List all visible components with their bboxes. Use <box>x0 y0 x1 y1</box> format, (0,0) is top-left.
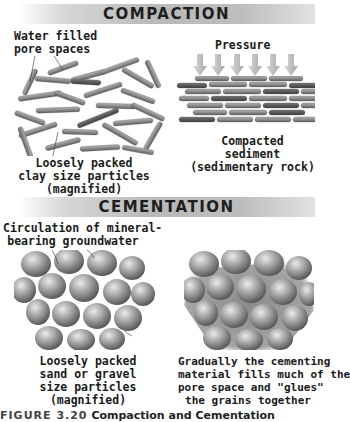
cemented-grains-illustration <box>184 250 314 350</box>
water-filled-pore-label: Water filled pore spaces <box>14 30 97 56</box>
pressure-arrows-icon <box>190 54 310 78</box>
groundwater-circulation-label: Circulation of mineral- bearing groundwa… <box>3 222 143 248</box>
cementation-banner: CEMENTATION <box>18 197 315 217</box>
cementing-material-label: Gradually the cementing material fills m… <box>178 355 318 407</box>
clay-particles-loose-illustration <box>8 56 168 156</box>
figure-number: FIGURE 3.20 <box>0 409 88 422</box>
compacted-sediment-illustration <box>175 76 315 134</box>
figure-caption: FIGURE 3.20 Compaction and Cementation <box>0 409 275 422</box>
loose-sand-gravel-label: Loosely packed sand or gravel size parti… <box>8 355 168 407</box>
pressure-label: Pressure <box>215 39 270 52</box>
compaction-banner: COMPACTION <box>18 4 315 24</box>
loosely-packed-clay-label: Loosely packed clay size particles (magn… <box>4 157 164 196</box>
figure-title: Compaction and Cementation <box>91 409 275 422</box>
compacted-sediment-label: Compacted sediment (sedimentary rock) <box>190 135 315 174</box>
cementation-title: CEMENTATION <box>98 198 234 216</box>
loose-sand-grains-illustration <box>14 250 174 350</box>
compaction-title: COMPACTION <box>103 5 230 23</box>
